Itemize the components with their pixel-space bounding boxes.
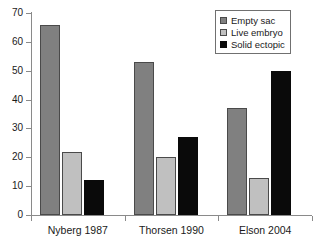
x-axis-line — [26, 215, 312, 216]
bar-chart: 010203040506070 Nyberg 1987Thorsen 1990E… — [0, 0, 315, 249]
legend: Empty sacLive embryoSolid ectopic — [215, 10, 291, 54]
x-axis-separator-tick — [312, 216, 313, 221]
legend-item: Live embryo — [220, 26, 285, 38]
bar — [134, 62, 154, 215]
x-axis-separator-tick — [31, 216, 32, 221]
legend-swatch-icon — [220, 41, 227, 48]
y-axis-tick-label: 30 — [12, 123, 23, 133]
legend-item-label: Live embryo — [231, 27, 283, 38]
legend-swatch-icon — [220, 17, 227, 24]
x-axis-category-label: Thorsen 1990 — [125, 224, 219, 236]
x-axis-category-label: Elson 2004 — [218, 224, 312, 236]
bar — [84, 180, 104, 215]
x-axis-separator-tick — [218, 216, 219, 221]
bar — [62, 152, 82, 215]
y-axis-tick-label: 10 — [12, 181, 23, 191]
legend-item-label: Empty sac — [231, 15, 275, 26]
legend-swatch-icon — [220, 29, 227, 36]
bar — [227, 108, 247, 215]
bar — [249, 178, 269, 216]
legend-item: Solid ectopic — [220, 38, 285, 50]
bar — [40, 25, 60, 215]
y-axis-tick-label: 70 — [12, 8, 23, 18]
x-axis-category-label: Nyberg 1987 — [31, 224, 125, 236]
y-axis-tick-label: 40 — [12, 95, 23, 105]
y-axis-tick-label: 20 — [12, 152, 23, 162]
legend-item-label: Solid ectopic — [231, 39, 285, 50]
x-axis-separator-tick — [125, 216, 126, 221]
bar — [156, 157, 176, 215]
y-axis-tick-label: 0 — [17, 210, 23, 220]
y-axis-tick-label: 60 — [12, 37, 23, 47]
legend-item: Empty sac — [220, 14, 285, 26]
y-axis-tick-label: 50 — [12, 66, 23, 76]
bar — [178, 137, 198, 215]
bar — [271, 71, 291, 215]
